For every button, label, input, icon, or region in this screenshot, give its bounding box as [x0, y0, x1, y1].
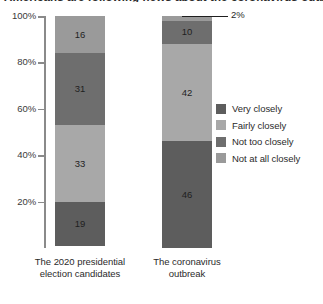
segment-not-at-all-closely: 16	[55, 16, 105, 53]
segment-very-closely: 19	[55, 202, 105, 246]
legend-swatch-icon	[216, 153, 226, 163]
legend-label: Not at all closely	[232, 153, 300, 164]
segment-value: 46	[182, 190, 192, 200]
category-label-election-candidates: The 2020 presidential election candidate…	[2, 256, 158, 279]
category-label-line: election candidates	[2, 268, 158, 280]
legend-item-not-at-all-closely[interactable]: Not at all closely	[216, 151, 300, 167]
category-label-line: The coronavirus	[143, 256, 231, 268]
segment-fairly-closely: 42	[162, 44, 212, 141]
y-axis-line	[44, 16, 46, 248]
segment-not-too-closely: 10	[162, 21, 212, 44]
y-tick-20	[38, 202, 44, 204]
category-label-coronavirus-outbreak: The coronavirus outbreak	[143, 256, 231, 279]
y-tick-label-40: 40%	[0, 150, 36, 160]
y-tick-label-100: 100%	[0, 11, 36, 21]
y-tick-60	[38, 109, 44, 111]
segment-value: 31	[75, 84, 85, 94]
segment-value: 42	[182, 88, 192, 98]
y-tick-label-60: 60%	[0, 104, 36, 114]
legend-label: Fairly closely	[232, 120, 286, 131]
segment-value: 33	[75, 159, 85, 169]
segment-fairly-closely: 33	[55, 125, 105, 202]
legend-label: Not too closely	[232, 136, 294, 147]
legend-item-fairly-closely[interactable]: Fairly closely	[216, 118, 300, 134]
legend-swatch-icon	[216, 120, 226, 130]
plot-area: 100% 80% 60% 40% 20% 16 31 33 19	[0, 0, 323, 304]
segment-value: 10	[182, 27, 192, 37]
chart-legend: Very closely Fairly closely Not too clos…	[216, 101, 300, 167]
segment-not-too-closely: 31	[55, 53, 105, 125]
bar-election-candidates: 16 31 33 19	[55, 16, 105, 248]
category-label-line: The 2020 presidential	[2, 256, 158, 268]
stacked-bar-chart: Americans are following news about the c…	[0, 0, 323, 304]
bar-coronavirus-outbreak: 2 10 42 46	[162, 16, 212, 248]
legend-label: Very closely	[232, 103, 282, 114]
segment-value: 16	[75, 30, 85, 40]
y-tick-label-20: 20%	[0, 197, 36, 207]
callout-label-2-percent: 2%	[231, 10, 245, 20]
category-label-line: outbreak	[143, 268, 231, 280]
y-tick-80	[38, 62, 44, 64]
legend-swatch-icon	[216, 137, 226, 147]
legend-item-very-closely[interactable]: Very closely	[216, 101, 300, 117]
segment-very-closely: 46	[162, 141, 212, 248]
segment-value: 19	[75, 219, 85, 229]
legend-item-not-too-closely[interactable]: Not too closely	[216, 134, 300, 150]
y-tick-label-80: 80%	[0, 57, 36, 67]
y-tick-40	[38, 155, 44, 157]
y-tick-100	[38, 16, 44, 18]
callout-leader-line	[182, 16, 228, 17]
legend-swatch-icon	[216, 104, 226, 114]
